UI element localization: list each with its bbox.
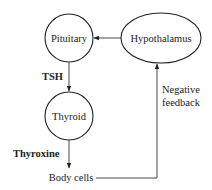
thyroid-label: Thyroid <box>52 111 87 122</box>
thyroid-feedback-diagram: Pituitary Hypothalamus Thyroid Body cell… <box>0 0 212 190</box>
hypothalamus-label: Hypothalamus <box>130 33 191 44</box>
pituitary-node: Pituitary <box>45 14 93 62</box>
thyroxine-label: Thyroxine <box>13 148 60 159</box>
pituitary-label: Pituitary <box>51 33 88 44</box>
tsh-label: TSH <box>42 71 63 82</box>
negative-feedback-label-line1: Negative <box>162 84 200 95</box>
hypothalamus-node: Hypothalamus <box>121 13 201 63</box>
thyroid-node: Thyroid <box>45 92 93 140</box>
arrow-negative-feedback <box>96 64 157 178</box>
negative-feedback-label-line2: feedback <box>162 97 201 108</box>
body-cells-label: Body cells <box>49 172 94 183</box>
